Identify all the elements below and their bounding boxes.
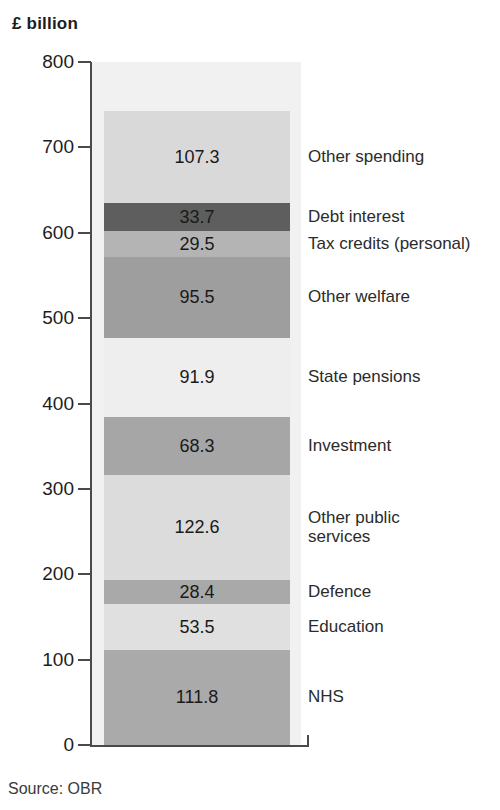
y-axis-tick-label: 800: [2, 52, 74, 71]
category-label: NHS: [308, 687, 498, 707]
category-label: Other welfare: [308, 287, 498, 307]
bar-segment[interactable]: 68.3: [104, 417, 290, 475]
y-axis-tick-label: 600: [2, 223, 74, 242]
source-note: Source: OBR: [8, 780, 102, 798]
bar-segment-value: 29.5: [179, 235, 214, 253]
category-label: Debt interest: [308, 207, 498, 227]
bar-segment-value: 68.3: [179, 437, 214, 455]
bar-segment[interactable]: 29.5: [104, 231, 290, 256]
y-axis-tick-label: 100: [2, 650, 74, 669]
y-axis-tick: [78, 403, 91, 405]
bar-segment-value: 53.5: [179, 618, 214, 636]
x-axis-end-tick: [307, 735, 309, 746]
y-axis-tick-label: 700: [2, 137, 74, 156]
category-label: Education: [308, 617, 498, 637]
bar-segment[interactable]: 107.3: [104, 111, 290, 203]
y-axis-tick-label: 0: [2, 735, 74, 754]
category-label: State pensions: [308, 367, 498, 387]
y-axis-tick: [78, 659, 91, 661]
category-label: Defence: [308, 582, 498, 602]
bar-segment-value: 33.7: [179, 208, 214, 226]
category-label: Investment: [308, 436, 498, 456]
y-axis-tick: [78, 573, 91, 575]
bar-segment[interactable]: 122.6: [104, 475, 290, 580]
y-axis-tick-label: 500: [2, 308, 74, 327]
x-axis-line: [90, 745, 309, 747]
y-axis-tick-label: 200: [2, 564, 74, 583]
bar-segment[interactable]: 111.8: [104, 650, 290, 745]
bar-segment-value: 122.6: [174, 518, 219, 536]
y-axis-tick: [78, 61, 91, 63]
bar-segment[interactable]: 53.5: [104, 604, 290, 650]
bar-segment[interactable]: 33.7: [104, 203, 290, 232]
y-axis-tick: [78, 744, 91, 746]
y-axis-tick: [78, 317, 91, 319]
bar-segment-value: 107.3: [174, 148, 219, 166]
bar-segment-value: 91.9: [179, 368, 214, 386]
category-label: Other spending: [308, 147, 498, 167]
bar-segment[interactable]: 28.4: [104, 580, 290, 604]
bar-segment-value: 95.5: [179, 288, 214, 306]
bar-segment[interactable]: 95.5: [104, 257, 290, 339]
bar-segment-value: 28.4: [179, 583, 214, 601]
category-label: Other public services: [308, 508, 498, 547]
y-axis-tick: [78, 488, 91, 490]
plot-area: 0100200300400500600700800 111.853.528.41…: [0, 0, 500, 810]
y-axis-tick: [78, 146, 91, 148]
bar-segment-value: 111.8: [176, 688, 218, 706]
category-label: Tax credits (personal): [308, 234, 498, 254]
bar-segment[interactable]: 91.9: [104, 338, 290, 416]
y-axis-tick-label: 300: [2, 479, 74, 498]
y-axis-tick: [78, 232, 91, 234]
y-axis-tick-label: 400: [2, 394, 74, 413]
